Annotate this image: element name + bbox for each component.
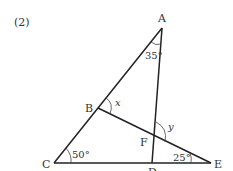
problem-number: (2) [14, 16, 30, 29]
point-label-E: E [214, 158, 222, 171]
geometry-diagram: (2) A B C D E F 35° 50° 25° x y [0, 0, 233, 171]
point-label-B: B [85, 102, 93, 115]
point-label-D: D [148, 166, 157, 171]
segment-BE [98, 108, 211, 163]
point-label-A: A [157, 12, 167, 25]
angle-label-x: x [115, 97, 121, 108]
point-label-C: C [42, 158, 50, 171]
segment-AD [152, 28, 162, 163]
angle-label-y: y [167, 121, 174, 132]
angle-label-C: 50° [72, 149, 90, 160]
angle-label-A: 35° [145, 50, 163, 61]
diagram-svg: (2) A B C D E F 35° 50° 25° x y [0, 0, 233, 171]
point-label-F: F [140, 136, 148, 149]
angle-label-E: 25° [173, 152, 191, 163]
angle-arc-A [151, 42, 161, 45]
angle-arc-C [66, 148, 71, 163]
